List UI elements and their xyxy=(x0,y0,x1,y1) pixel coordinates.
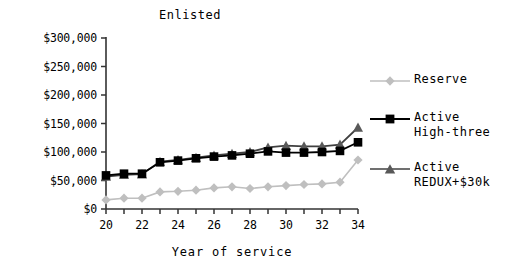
y-tick-label: $100,000 xyxy=(43,145,97,159)
data-point-square xyxy=(174,156,183,165)
data-point-triangle xyxy=(353,123,363,132)
data-point-square xyxy=(138,169,147,178)
x-tick-label: 34 xyxy=(351,218,365,232)
series-line xyxy=(106,160,358,200)
x-tick-label: 28 xyxy=(243,218,257,232)
active-high-three-line-marker-icon xyxy=(370,112,410,126)
data-point-diamond xyxy=(155,187,164,196)
data-point-diamond xyxy=(173,187,182,196)
data-point-diamond xyxy=(209,183,218,192)
chart-legend: Reserve Active High-three Active REDUX+$… xyxy=(370,72,518,210)
x-tick-label: 32 xyxy=(315,218,328,232)
data-point-square xyxy=(228,151,237,160)
data-point-square xyxy=(354,138,363,147)
y-tick-label: $150,000 xyxy=(43,117,97,131)
data-point-diamond xyxy=(299,180,308,189)
data-point-diamond xyxy=(245,184,254,193)
data-point-square xyxy=(336,147,345,156)
data-point-diamond xyxy=(119,194,128,203)
data-point-square xyxy=(264,147,273,156)
data-point-square xyxy=(246,149,255,158)
reserve-line-marker-icon xyxy=(370,74,410,88)
y-tick-label: $250,000 xyxy=(43,60,97,74)
data-point-square xyxy=(102,171,111,180)
active-redux-line-marker-icon xyxy=(370,162,410,176)
series-reserve xyxy=(101,155,362,204)
x-tick-label: 26 xyxy=(207,218,221,232)
legend-label-active-redux: Active REDUX+$30k xyxy=(414,160,518,190)
enlisted-retirement-chart: Enlisted $0$50,000$100,000$150,000$200,0… xyxy=(0,0,518,274)
data-point-square xyxy=(210,152,219,161)
legend-item-active-redux[interactable]: Active REDUX+$30k xyxy=(370,160,518,190)
legend-item-active-high-three[interactable]: Active High-three xyxy=(370,110,518,140)
y-tick-label: $300,000 xyxy=(43,31,97,45)
data-point-square xyxy=(156,158,165,167)
legend-label-reserve: Reserve xyxy=(414,72,518,87)
y-tick-label: $0 xyxy=(84,202,98,216)
y-tick-label: $200,000 xyxy=(43,88,97,102)
data-point-diamond xyxy=(191,186,200,195)
x-tick-label: 22 xyxy=(135,218,148,232)
x-tick-label: 20 xyxy=(99,218,113,232)
data-point-square xyxy=(192,154,201,163)
data-point-square xyxy=(282,148,291,157)
x-tick-label: 24 xyxy=(171,218,185,232)
data-point-diamond xyxy=(227,182,236,191)
legend-label-active-high-three: Active High-three xyxy=(414,110,518,140)
legend-item-reserve[interactable]: Reserve xyxy=(370,72,518,90)
data-point-diamond xyxy=(137,194,146,203)
data-point-diamond xyxy=(281,181,290,190)
data-point-square xyxy=(300,148,309,157)
data-point-diamond xyxy=(101,195,110,204)
data-point-diamond xyxy=(317,179,326,188)
x-axis-title: Year of service xyxy=(106,245,358,259)
data-point-square xyxy=(120,169,129,178)
data-point-diamond xyxy=(263,182,272,191)
y-tick-label: $50,000 xyxy=(50,174,97,188)
data-point-square xyxy=(318,148,327,157)
x-tick-label: 30 xyxy=(279,218,293,232)
